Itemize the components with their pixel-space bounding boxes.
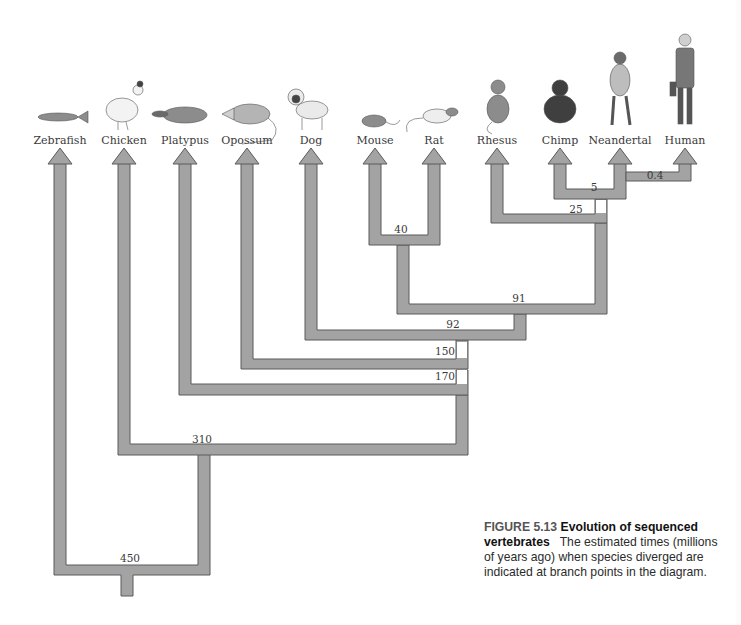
arrow-neandertal: [608, 148, 632, 164]
divergence-label-450: 450: [120, 552, 140, 564]
species-label-zebrafish: Zebrafish: [33, 134, 86, 147]
arrow-zebrafish: [48, 148, 72, 164]
species-label-neandertal: Neandertal: [588, 134, 651, 147]
species-label-rat: Rat: [424, 134, 444, 147]
zebrafish-icon: [38, 111, 88, 123]
species-label-mouse: Mouse: [356, 134, 393, 147]
divergence-label-150: 150: [435, 345, 455, 357]
rat-icon: [406, 108, 458, 132]
arrow-human: [673, 148, 697, 164]
chimpanzee-icon: [544, 80, 576, 123]
arrow-dog: [299, 148, 323, 164]
neandertal-icon: [610, 52, 630, 125]
species-label-dog: Dog: [300, 134, 322, 147]
species-label-chicken: Chicken: [101, 134, 146, 147]
species-label-human: Human: [665, 134, 706, 147]
divergence-label-91: 91: [512, 292, 525, 304]
divergence-label-25: 25: [569, 203, 582, 215]
divergence-label-310: 310: [192, 433, 212, 445]
rhesus-monkey-icon: [487, 80, 509, 134]
human-icon: [670, 34, 694, 124]
species-label-rhesus: Rhesus: [477, 134, 517, 147]
phylogenetic-tree-figure: .br { fill: #a3a3a3; stroke: #5a5a5a; st…: [0, 0, 741, 625]
arrow-chicken: [112, 148, 136, 164]
figure-caption: FIGURE 5.13 Evolution of sequenced verte…: [484, 520, 724, 580]
arrow-rat: [422, 148, 446, 164]
mouse-icon: [362, 115, 400, 127]
arrow-platypus: [173, 148, 197, 164]
divergence-label-92: 92: [446, 318, 459, 330]
platypus-icon: [152, 107, 207, 123]
label-gap-170: [457, 370, 467, 384]
label-gap-150: [457, 342, 467, 358]
page-edge: [736, 0, 741, 625]
arrow-chimp: [548, 148, 572, 164]
species-label-platypus: Platypus: [161, 134, 209, 147]
divergence-label-170: 170: [435, 370, 455, 382]
chicken-icon: [106, 81, 143, 130]
arrow-opossum: [235, 148, 259, 164]
figure-number: FIGURE 5.13: [484, 520, 557, 534]
divergence-label-5: 5: [591, 181, 598, 193]
leaf-arrowheads: [48, 148, 697, 164]
divergence-label-40: 40: [394, 223, 407, 235]
species-label-opossum: Opossum: [221, 134, 273, 147]
dog-icon: [288, 89, 328, 130]
species-label-chimp: Chimp: [542, 134, 579, 147]
divergence-label-0-4: 0.4: [647, 169, 664, 181]
arrow-mouse: [363, 148, 387, 164]
animal-illustrations: [38, 34, 694, 144]
arrow-rhesus: [485, 148, 509, 164]
label-gap-25: [596, 200, 606, 213]
